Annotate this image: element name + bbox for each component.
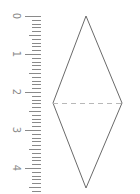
ruler-label: 1: [11, 51, 22, 57]
ruler-label: 3: [11, 127, 22, 133]
ruler-label: 4: [11, 165, 22, 171]
rhombus: [53, 16, 122, 188]
diagram-canvas: 01234: [0, 0, 140, 194]
ruler: 01234: [11, 13, 42, 192]
ruler-label: 0: [11, 13, 22, 19]
rhombus-shape: [53, 16, 122, 188]
ruler-label: 2: [11, 89, 22, 95]
